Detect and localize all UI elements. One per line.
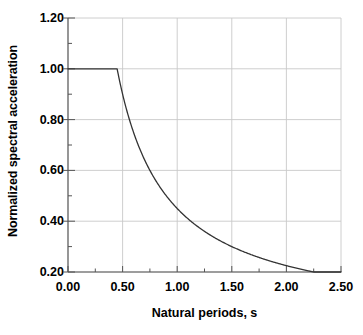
x-tick-label: 1.50 [207, 280, 257, 294]
x-tick-label: 0.00 [43, 280, 93, 294]
y-tick-label: 0.20 [26, 266, 64, 278]
plot-area [68, 18, 341, 272]
x-tick-label: 1.00 [152, 280, 202, 294]
y-tick-label: 1.20 [26, 12, 64, 24]
y-tick-label: 1.00 [26, 63, 64, 75]
x-tick-label: 0.50 [98, 280, 148, 294]
y-tick-label: 0.80 [26, 114, 64, 126]
gridlines [68, 18, 341, 272]
x-tick-label: 2.50 [316, 280, 363, 294]
y-tick-label: 0.60 [26, 164, 64, 176]
plot-canvas [68, 18, 341, 272]
x-axis-title: Natural periods, s [68, 306, 341, 320]
axis-ticks [63, 18, 341, 272]
y-tick-label: 0.40 [26, 215, 64, 227]
y-axis-tick-labels: 0.200.400.600.801.001.20 [20, 0, 64, 290]
chart-figure: Normalized spectral acceleration 0.200.4… [0, 0, 363, 335]
axis-frame [68, 18, 341, 272]
x-tick-label: 2.00 [261, 280, 311, 294]
y-axis-title-text: Normalized spectral acceleration [6, 45, 20, 237]
x-axis-tick-labels: 0.000.501.001.502.002.50 [0, 280, 363, 300]
